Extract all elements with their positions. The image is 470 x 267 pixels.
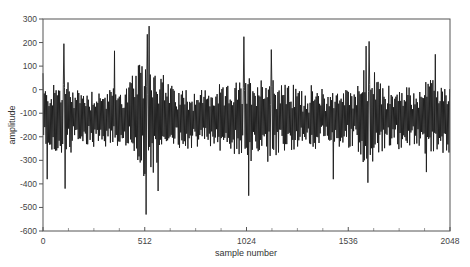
y-tick-label: -500: [20, 202, 37, 212]
y-tick-label: 100: [23, 61, 37, 71]
x-axis-ticks: 0512102415362048: [41, 227, 460, 246]
y-axis-title: amplitude: [7, 105, 17, 144]
signal-line: [43, 26, 450, 214]
y-tick-label: -200: [20, 132, 37, 142]
waveform-chart: 3002001000-100-200-300-400-500-600 05121…: [0, 0, 470, 267]
y-tick-label: -300: [20, 155, 37, 165]
y-tick-label: 200: [23, 38, 37, 48]
x-tick-label: 1536: [339, 236, 358, 246]
y-tick-label: -400: [20, 179, 37, 189]
y-tick-label: 0: [32, 85, 37, 95]
y-tick-label: 300: [23, 14, 37, 24]
x-tick-label: 512: [138, 236, 152, 246]
y-tick-label: -100: [20, 108, 37, 118]
x-tick-label: 2048: [441, 236, 460, 246]
y-axis-ticks: 3002001000-100-200-300-400-500-600: [20, 14, 43, 236]
y-tick-label: -600: [20, 226, 37, 236]
x-axis-title: sample number: [215, 248, 277, 258]
x-tick-label: 0: [41, 236, 46, 246]
x-tick-label: 1024: [237, 236, 256, 246]
